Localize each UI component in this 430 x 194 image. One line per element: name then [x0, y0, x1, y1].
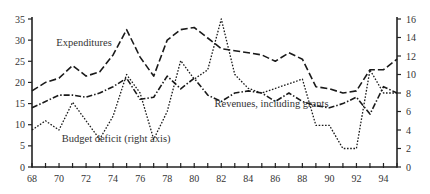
x-tick-label: 90 — [324, 173, 334, 184]
x-tick-label: 72 — [81, 173, 91, 184]
left-tick-label: 35 — [15, 14, 25, 25]
label-budget-deficit: Budget deficit (right axis) — [62, 133, 171, 145]
x-tick-label: 92 — [351, 173, 361, 184]
left-tick-label: 25 — [15, 56, 25, 67]
right-tick-label: 16 — [406, 14, 416, 25]
left-tick-label: 15 — [15, 98, 25, 109]
right-tick-label: 0 — [406, 162, 411, 173]
x-tick-label: 76 — [135, 173, 145, 184]
x-tick-label: 80 — [189, 173, 199, 184]
x-tick-label: 70 — [54, 173, 64, 184]
x-tick-label: 74 — [108, 173, 118, 184]
right-tick-label: 6 — [406, 106, 411, 117]
line-chart: 0510152025303502468101214166870727476788… — [0, 0, 430, 194]
right-tick-label: 14 — [406, 32, 416, 43]
x-tick-label: 82 — [216, 173, 226, 184]
right-tick-label: 8 — [406, 88, 411, 99]
x-tick-label: 78 — [162, 173, 172, 184]
x-tick-label: 94 — [378, 173, 388, 184]
right-tick-label: 4 — [406, 125, 411, 136]
left-tick-label: 5 — [20, 140, 25, 151]
label-expenditures: Expenditures — [56, 37, 111, 48]
left-tick-label: 0 — [20, 162, 25, 173]
left-tick-label: 30 — [15, 35, 25, 46]
right-tick-label: 2 — [406, 143, 411, 154]
x-tick-label: 88 — [297, 173, 307, 184]
annotations: Expenditures Revenues, including grants … — [56, 37, 328, 145]
label-revenues: Revenues, including grants — [215, 98, 329, 109]
x-tick-label: 68 — [27, 173, 37, 184]
right-tick-label: 12 — [406, 51, 416, 62]
left-tick-label: 10 — [15, 119, 25, 130]
x-tick-label: 86 — [270, 173, 280, 184]
left-tick-label: 20 — [15, 77, 25, 88]
x-tick-label: 84 — [243, 173, 253, 184]
right-tick-label: 10 — [406, 69, 416, 80]
